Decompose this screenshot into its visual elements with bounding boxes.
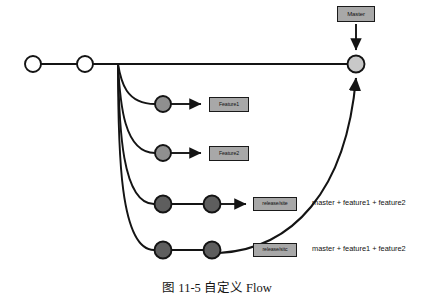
feature1-branch-label: Feature1 [209, 97, 249, 112]
release1-branch-label: release/site [253, 197, 297, 211]
master-merge-commit [348, 56, 365, 73]
figure-caption: 图 11-5 自定义 Flow [0, 277, 434, 296]
release1-commit-2 [204, 196, 221, 213]
release2-branch-label: release/sitc [253, 243, 297, 257]
release1-commit-1 [155, 196, 172, 213]
release2-commit-2 [204, 242, 221, 259]
master-commit-2 [77, 56, 93, 72]
figure-custom-flow: Master Feature1 Feature2 release/site re… [0, 0, 434, 302]
master-branch-label: Master [337, 6, 375, 22]
edge-fork-feature2 [118, 64, 155, 153]
commit-nodes-group [25, 56, 365, 259]
feature2-commit-1 [155, 145, 171, 161]
feature1-commit-1 [155, 96, 171, 112]
release1-composition-note: master + feature1 + feature2 [312, 199, 406, 206]
feature2-branch-label: Feature2 [209, 146, 249, 161]
release2-commit-1 [155, 242, 172, 259]
release2-composition-note: master + feature1 + feature2 [312, 245, 406, 252]
master-commit-1 [25, 56, 41, 72]
edge-fork-feature1 [118, 64, 155, 104]
